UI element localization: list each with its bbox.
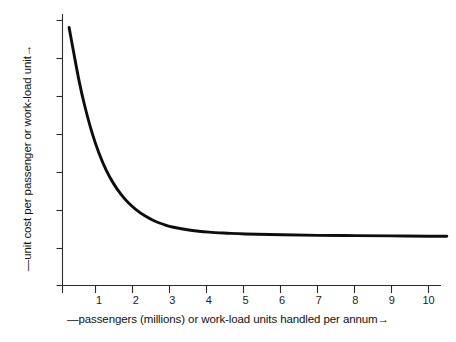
x-axis-ticks xyxy=(96,286,429,294)
y-axis-label: —unit cost per passenger or work-load un… xyxy=(17,18,37,298)
x-axis-label-text: —passengers (millions) or work-load unit… xyxy=(67,313,389,325)
chart-figure: 12345678910 —passengers (millions) or wo… xyxy=(0,0,456,342)
x-tick-label-5: 5 xyxy=(234,294,258,306)
x-tick-label-9: 9 xyxy=(380,294,404,306)
x-tick-label-8: 8 xyxy=(343,294,367,306)
x-tick-label-10: 10 xyxy=(417,294,441,306)
x-tick-label-7: 7 xyxy=(307,294,331,306)
chart-plot-area xyxy=(0,0,456,342)
cost-curve xyxy=(69,28,447,237)
y-axis-label-text: —unit cost per passenger or work-load un… xyxy=(21,45,33,271)
y-axis-ticks xyxy=(57,21,63,286)
x-tick-label-1: 1 xyxy=(87,294,111,306)
x-tick-label-6: 6 xyxy=(270,294,294,306)
x-tick-label-3: 3 xyxy=(160,294,184,306)
x-axis-label: —passengers (millions) or work-load unit… xyxy=(0,309,456,327)
x-tick-label-2: 2 xyxy=(124,294,148,306)
x-tick-label-4: 4 xyxy=(197,294,221,306)
